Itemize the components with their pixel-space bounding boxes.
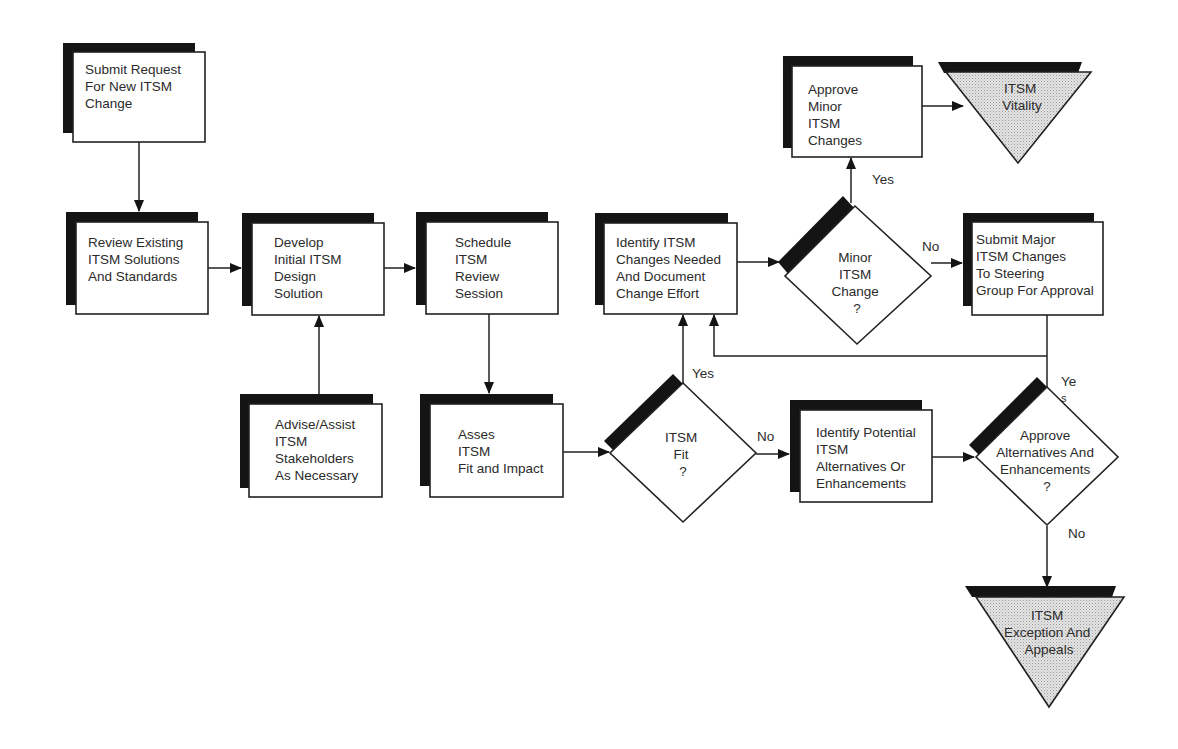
node-text-line: ITSM [455,252,487,267]
label-minor-yes: Yes [872,172,894,187]
node-text-line: Group For Approval [976,283,1094,298]
node-text-line: And Standards [88,269,178,284]
node-text-line: ITSM Changes [976,249,1066,264]
node-text-line: ITSM [1031,608,1063,623]
triangle-shadow [965,586,1116,597]
node-develop-initial: Develop Initial ITSM Design Solution [242,213,384,315]
node-text-line: Changes Needed [616,252,721,267]
edges [139,106,1047,587]
node-itsm-fit: ITSM Fit ? [604,374,756,522]
node-itsm-vitality: ITSM Vitality [938,62,1091,163]
node-text-line: ITSM [839,267,871,282]
node-text-line: Changes [808,133,862,148]
label-minor-no: No [922,239,939,254]
node-text-line: Solution [274,286,323,301]
itsm-change-flowchart: Yes No Yes No Ye s No Submit Request For… [0,0,1178,749]
node-text-line: Identify Potential [816,425,916,440]
node-text-line: Change [85,96,132,111]
node-text-line: Identify ITSM [616,235,696,250]
node-text-line: ITSM [808,116,840,131]
node-text-line: ITSM [458,444,490,459]
node-text-line: Review [455,269,500,284]
node-text-line: Vitality [1002,98,1042,113]
node-exception-appeals: ITSM Exception And Appeals [965,586,1124,707]
node-text-line: Alternatives Or [816,459,906,474]
node-approve-minor: Approve Minor ITSM Changes [783,56,922,157]
node-text-line: ITSM [1004,81,1036,96]
node-identify-changes: Identify ITSM Changes Needed And Documen… [595,213,737,314]
node-text-line: For New ITSM [85,79,172,94]
node-approve-alternatives: Approve Alternatives And Enhancements ? [969,377,1118,525]
node-text-line: Submit Request [85,62,181,77]
node-submit-major: Submit Major ITSM Changes To Steering Gr… [963,213,1103,315]
node-text-line: Minor [808,99,842,114]
node-text-line: ITSM [665,430,697,445]
label-fit-yes: Yes [692,366,714,381]
node-asses-fit: Asses ITSM Fit and Impact [420,394,563,497]
node-schedule-review: Schedule ITSM Review Session [416,212,558,314]
node-text-line: Approve [1020,428,1070,443]
node-text-line: Enhancements [816,476,906,491]
node-identify-alternatives: Identify Potential ITSM Alternatives Or … [790,400,932,502]
node-submit-request: Submit Request For New ITSM Change [63,43,205,142]
node-text-line: Schedule [455,235,511,250]
node-text-line: ? [1043,479,1051,494]
node-text-line: Change [831,284,878,299]
label-fit-no: No [757,429,774,444]
node-text-line: Alternatives And [996,445,1094,460]
node-text-line: Initial ITSM [274,252,342,267]
node-text-line: Review Existing [88,235,183,250]
node-text-line: Advise/Assist [275,417,356,432]
node-text-line: To Steering [976,266,1044,281]
node-text-line: Asses [458,427,495,442]
node-minor-change: Minor ITSM Change ? [778,196,931,344]
process-box [430,404,563,497]
node-text-line: And Document [616,269,706,284]
node-advise-assist: Advise/Assist ITSM Stakeholders As Neces… [240,394,382,497]
label-alt-yes: Ye [1061,374,1076,389]
node-text-line: ITSM Solutions [88,252,180,267]
node-text-line: Exception And [1004,625,1090,640]
node-text-line: Develop [274,235,324,250]
node-text-line: Submit Major [976,232,1056,247]
node-text-line: Fit and Impact [458,461,544,476]
node-text-line: ITSM [816,442,848,457]
node-text-line: Appeals [1025,642,1074,657]
node-text-line: Minor [838,250,872,265]
node-text-line: Fit [674,447,689,462]
node-text-line: Enhancements [1000,462,1090,477]
svg-text:Review Existing ITSM Sol: Review Existing ITSM Solutions And Stand… [88,235,187,284]
node-text-line: Approve [808,82,858,97]
node-review-existing: Review Existing ITSM Solutions And Stand… [66,212,208,314]
node-text-line: As Necessary [275,468,359,483]
label-alt-no: No [1068,526,1085,541]
node-text-line: Stakeholders [275,451,354,466]
node-text-line: Change Effort [616,286,699,301]
node-text-line: ? [853,301,861,316]
node-text-line: ? [679,464,687,479]
node-text-line: Session [455,286,503,301]
node-text-line: ITSM [275,434,307,449]
node-text-line: Design [274,269,316,284]
